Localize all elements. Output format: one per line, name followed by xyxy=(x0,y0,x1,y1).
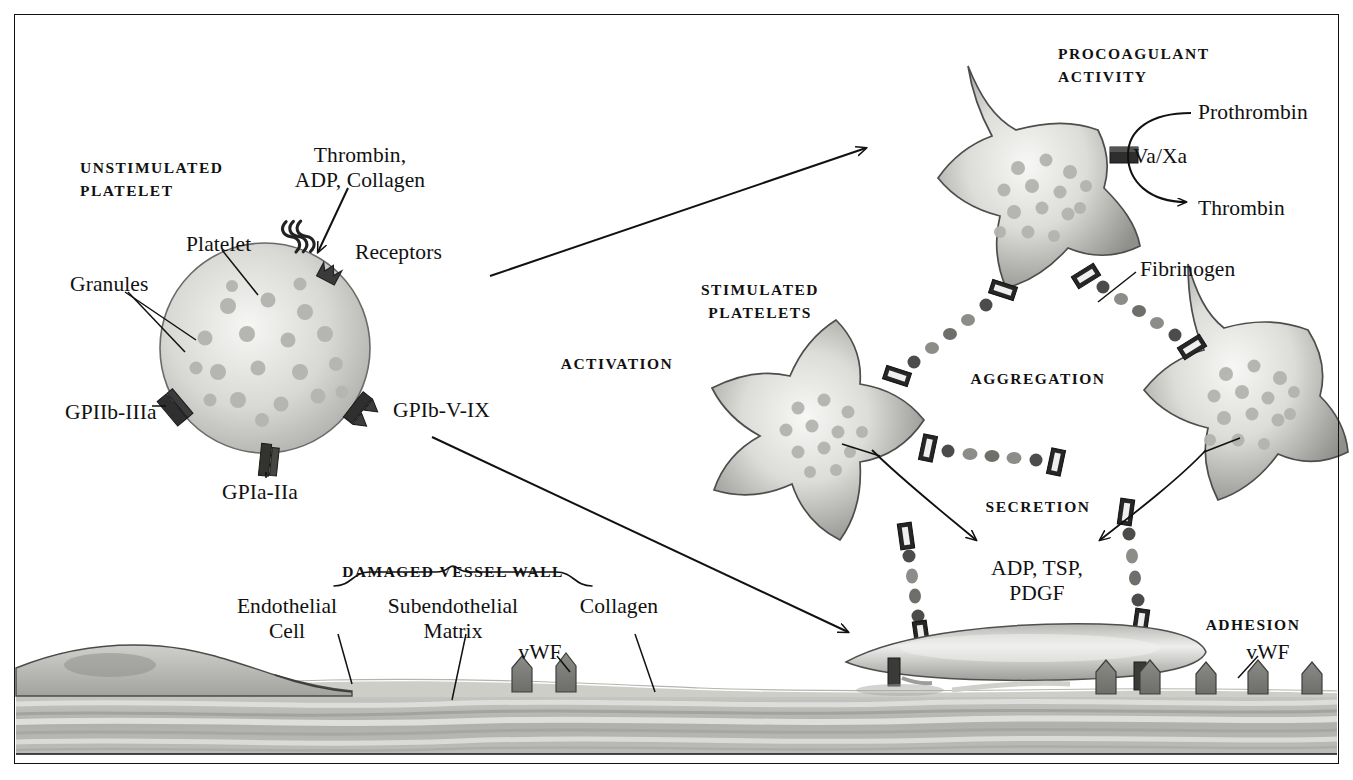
figure-border xyxy=(14,14,1339,764)
figure-canvas: UNSTIMULATED PLATELET PROCOAGULANT ACTIV… xyxy=(0,0,1353,780)
